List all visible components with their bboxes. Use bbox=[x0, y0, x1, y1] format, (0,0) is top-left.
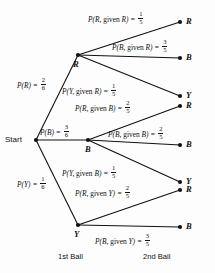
prob-text-p-r: P(R) = bbox=[17, 81, 40, 90]
fraction-y-given-r: 15 bbox=[111, 83, 116, 98]
node-first-r bbox=[76, 53, 80, 57]
endpoint-label-bb: B bbox=[186, 140, 192, 149]
prob-label-p-y: P(Y) = 16 bbox=[17, 176, 46, 191]
caption-first-ball: 1st Ball bbox=[58, 253, 83, 261]
prob-label-r-given-r: P(R, given R) = 15 bbox=[88, 11, 143, 26]
node-first-y bbox=[76, 223, 80, 227]
node-end-rr bbox=[178, 20, 182, 24]
fraction-p-y: 16 bbox=[40, 176, 45, 191]
fraction-b-given-y: 35 bbox=[145, 233, 150, 248]
node-end-yr bbox=[178, 188, 182, 192]
caption-second-ball: 2nd Ball bbox=[143, 253, 170, 261]
node-end-rb bbox=[178, 56, 182, 60]
fraction-y-given-b: 15 bbox=[111, 165, 116, 180]
prob-label-b-given-b: P(B, given B) = 25 bbox=[108, 126, 163, 141]
endpoint-label-rr: R bbox=[186, 17, 192, 26]
prob-text-p-b: P(B) = bbox=[40, 128, 63, 137]
fraction-r-given-r: 15 bbox=[138, 11, 143, 26]
fraction-p-b: 36 bbox=[64, 124, 69, 139]
node-end-by bbox=[178, 180, 182, 184]
prob-label-y-given-r: P(Y, given R) = 15 bbox=[62, 83, 116, 98]
endpoint-label-br: R bbox=[186, 101, 192, 110]
branch-y-to-b bbox=[78, 225, 180, 227]
prob-label-r-given-y: P(R, given Y) = 25 bbox=[75, 185, 130, 200]
fraction-r-given-b: 25 bbox=[125, 100, 130, 115]
prob-label-b-given-y: P(B, given Y) = 35 bbox=[95, 233, 150, 248]
node-first-b bbox=[86, 138, 90, 142]
fraction-b-given-r: 35 bbox=[162, 39, 167, 54]
first-ball-node-b-label: B bbox=[85, 145, 91, 154]
probability-tree-diagram: Start R B Y P(R) = 26 P(B) = 36 P(Y) = 1… bbox=[0, 0, 215, 273]
node-end-br bbox=[178, 104, 182, 108]
prob-label-p-b: P(B) = 36 bbox=[40, 124, 69, 139]
start-node-label: Start bbox=[5, 136, 22, 144]
endpoint-label-rb: B bbox=[186, 53, 192, 62]
endpoint-label-ry: Y bbox=[186, 91, 191, 100]
prob-text-p-y: P(Y) = bbox=[17, 180, 39, 189]
node-start bbox=[34, 138, 38, 142]
prob-label-r-given-b: P(R, given B) = 25 bbox=[75, 100, 130, 115]
fraction-p-r: 26 bbox=[41, 77, 46, 92]
first-ball-node-r-label: R bbox=[73, 60, 79, 69]
fraction-r-given-y: 25 bbox=[125, 185, 130, 200]
node-end-yb bbox=[178, 225, 182, 229]
prob-label-y-given-b: P(Y, given B) = 15 bbox=[62, 165, 116, 180]
fraction-b-given-b: 25 bbox=[158, 126, 163, 141]
prob-label-b-given-r: P(B, given R) = 35 bbox=[112, 39, 167, 54]
node-end-bb bbox=[178, 143, 182, 147]
prob-label-p-r: P(R) = 26 bbox=[17, 77, 46, 92]
endpoint-label-yb: B bbox=[186, 222, 192, 231]
endpoint-label-yr: R bbox=[186, 185, 192, 194]
node-end-ry bbox=[178, 94, 182, 98]
branch-r-to-b bbox=[78, 55, 180, 58]
first-ball-node-y-label: Y bbox=[74, 230, 79, 239]
